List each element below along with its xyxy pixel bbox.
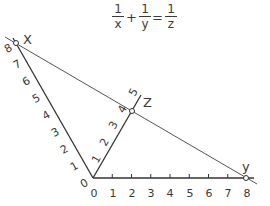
x-tick-label: 6 [20,74,33,89]
y-tick-label: 4 [167,187,174,200]
plus-operator: + [126,10,137,25]
y-tick-label: 3 [148,187,155,200]
fraction-1-over-z: 1 z [165,3,177,30]
z-axis-labels: 1 2 3 4 5 [89,86,141,166]
y-tick-label: 6 [206,187,213,200]
numerator: 1 [112,3,124,17]
fraction-1-over-x: 1 x [112,3,124,30]
fraction-1-over-y: 1 y [139,3,151,30]
x-tick-label: 4 [40,108,53,123]
numerator: 1 [165,3,177,17]
z-axis-label: Z [143,95,152,110]
y-tick-label: 2 [129,187,136,200]
equals-operator: = [152,10,163,25]
z-marker-circle [130,109,135,114]
x-tick-label: 1 [68,159,81,174]
denominator: y [139,17,151,30]
y-tick-label: 7 [225,187,232,200]
y-tick-label: 8 [244,187,251,200]
y-tick-label: 1 [110,187,117,200]
x-tick-label: 2 [58,142,71,157]
y-tick-label: 5 [187,187,194,200]
x-tick-label: 0 [78,176,91,191]
z-tick-label: 3 [106,119,121,132]
z-tick-label: 4 [115,103,130,116]
x-tick-label: 5 [30,91,43,106]
z-tick-label: 2 [97,136,112,149]
y-marker-circle [244,176,249,181]
denominator: z [165,17,177,30]
x-axis-labels: 0 1 2 3 4 5 6 7 8 [2,41,91,191]
x-tick-label: 7 [11,57,24,72]
equation: 1 x + 1 y = 1 z [112,3,192,37]
x-marker-circle [14,41,19,46]
denominator: x [112,17,124,30]
numerator: 1 [139,3,151,17]
z-tick-label: 5 [126,86,141,99]
x-tick-label: 3 [49,125,62,140]
y-axis-labels: 0 1 2 3 4 5 6 7 8 [91,187,251,200]
x-axis-label: X [23,32,32,47]
x-tick-label: 8 [2,41,15,56]
nomogram: 1 x + 1 y = 1 z [0,0,270,206]
x-axis-line [13,38,93,178]
y-tick-label: 0 [91,187,98,200]
y-axis-label: y [242,159,250,174]
